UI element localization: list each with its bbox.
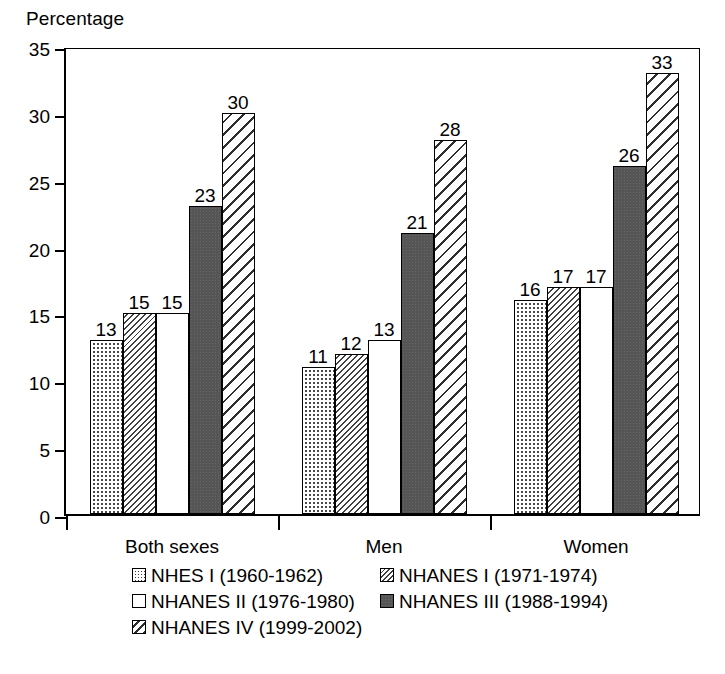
bar: [222, 113, 255, 514]
y-tick-mark: [55, 517, 66, 519]
bar-value-label: 15: [161, 293, 182, 312]
bar-value-label: 21: [406, 213, 427, 232]
x-category-label: Both sexes: [125, 536, 219, 558]
bar: [123, 313, 156, 514]
legend-row: NHES I (1960-1962)NHANES I (1971-1974): [132, 562, 672, 588]
y-tick-mark: [55, 250, 66, 252]
legend-item[interactable]: NHANES I (1971-1974): [380, 566, 598, 585]
bar: [189, 206, 222, 514]
y-tick-label: 35: [29, 40, 50, 59]
legend-item[interactable]: NHANES IV (1999-2002): [132, 618, 380, 637]
y-tick-label: 15: [29, 307, 50, 326]
legend-label: NHANES II (1976-1980): [151, 592, 355, 611]
y-tick-label: 20: [29, 240, 50, 259]
legend-row: NHANES II (1976-1980)NHANES III (1988-19…: [132, 588, 672, 614]
bar-value-label: 16: [519, 280, 540, 299]
plot-area: 131515233011121321281617172633 051015202…: [64, 48, 700, 516]
legend-swatch-icon: [380, 568, 394, 582]
y-tick-mark: [55, 49, 66, 51]
bar-value-label: 13: [373, 320, 394, 339]
bar: [613, 166, 646, 514]
y-tick-mark: [55, 383, 66, 385]
y-tick-mark: [55, 450, 66, 452]
x-tick-mark: [278, 514, 280, 530]
bar: [580, 287, 613, 514]
bar-value-label: 17: [552, 267, 573, 286]
bar: [156, 313, 189, 514]
y-tick-label: 25: [29, 173, 50, 192]
y-tick-mark: [55, 183, 66, 185]
chart-root: Percentage 13151523301112132128161717263…: [0, 0, 725, 674]
x-category-label: Women: [563, 536, 628, 558]
bar: [646, 73, 679, 514]
bar-value-label: 33: [651, 53, 672, 72]
legend-swatch-icon: [132, 594, 146, 608]
x-tick-mark: [490, 514, 492, 530]
legend-item[interactable]: NHES I (1960-1962): [132, 566, 380, 585]
y-tick-label: 5: [39, 441, 50, 460]
x-axis-origin-tick: [66, 514, 68, 530]
y-tick-label: 0: [39, 508, 50, 527]
bar-value-label: 17: [585, 267, 606, 286]
legend-item[interactable]: NHANES III (1988-1994): [380, 592, 608, 611]
bar-value-label: 13: [95, 320, 116, 339]
y-tick-mark: [55, 316, 66, 318]
legend-label: NHANES III (1988-1994): [399, 592, 608, 611]
bar: [335, 354, 368, 514]
bar: [368, 340, 401, 514]
legend-label: NHANES I (1971-1974): [399, 566, 598, 585]
bar-value-label: 12: [340, 334, 361, 353]
y-tick-label: 10: [29, 374, 50, 393]
bar: [434, 140, 467, 514]
bar: [90, 340, 123, 514]
y-tick-mark: [55, 116, 66, 118]
legend-label: NHES I (1960-1962): [151, 566, 323, 585]
legend-swatch-icon: [380, 594, 394, 608]
bar-value-label: 23: [194, 186, 215, 205]
legend-label: NHANES IV (1999-2002): [151, 618, 362, 637]
bar: [547, 287, 580, 514]
legend-row: NHANES IV (1999-2002): [132, 614, 672, 640]
chart-legend: NHES I (1960-1962)NHANES I (1971-1974)NH…: [132, 562, 672, 640]
y-tick-label: 30: [29, 106, 50, 125]
bar-value-label: 28: [439, 120, 460, 139]
bar-value-label: 30: [227, 93, 248, 112]
bar-value-label: 11: [308, 347, 328, 366]
x-category-label: Men: [366, 536, 403, 558]
bar: [514, 300, 547, 514]
bar: [302, 367, 335, 514]
legend-item[interactable]: NHANES II (1976-1980): [132, 592, 380, 611]
legend-swatch-icon: [132, 568, 146, 582]
bar-value-label: 26: [618, 146, 639, 165]
legend-swatch-icon: [132, 620, 146, 634]
bar-series-container: 131515233011121321281617172633: [66, 49, 699, 514]
y-axis-title: Percentage: [26, 8, 124, 30]
bar: [401, 233, 434, 514]
bar-value-label: 15: [128, 293, 149, 312]
